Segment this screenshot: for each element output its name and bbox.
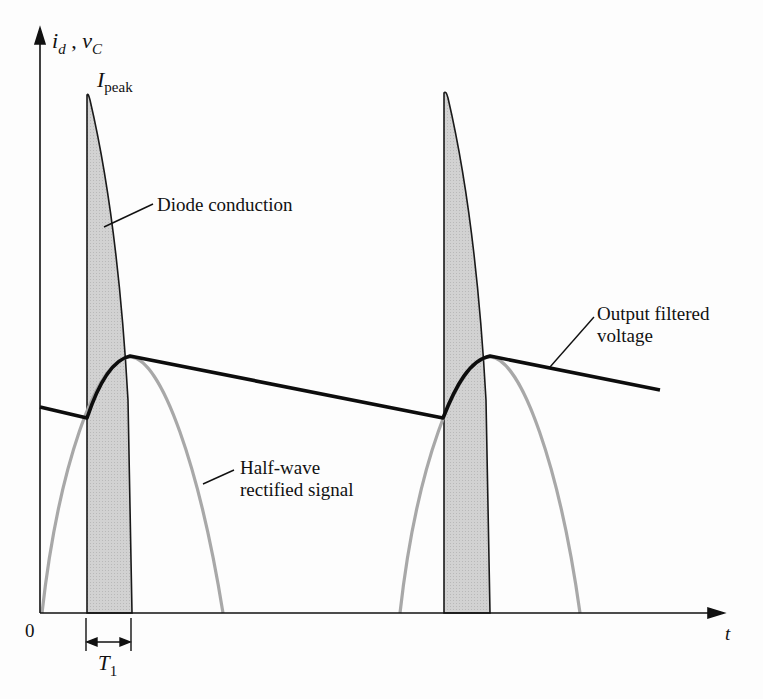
t1-label: T1	[98, 651, 117, 679]
output-filtered-voltage	[40, 356, 660, 418]
x-axis-arrow-icon	[708, 608, 724, 618]
peak-current-label: Ipeak	[96, 67, 133, 95]
y-axis-arrow-icon	[35, 28, 45, 44]
output-filtered-label-line1: Output filtered	[597, 303, 710, 324]
rectifier-waveform-diagram: id , vC Ipeak Diode conduction Output fi…	[0, 0, 763, 699]
x-axis-label: t	[725, 623, 731, 644]
diode-conduction-label: Diode conduction	[157, 194, 293, 215]
output-voltage-leader	[550, 317, 594, 367]
output-filtered-label-line2: voltage	[597, 325, 653, 346]
half-wave-label-line2: rectified signal	[240, 479, 353, 500]
diode-conduction-pulse-2	[444, 92, 490, 613]
y-axis-label: id , vC	[52, 28, 103, 57]
half-wave-leader	[203, 470, 234, 484]
t1-interval-marker	[86, 618, 131, 651]
half-wave-label-line1: Half-wave	[240, 457, 320, 478]
diode-conduction-pulse-1	[87, 94, 132, 613]
origin-label: 0	[25, 620, 35, 641]
